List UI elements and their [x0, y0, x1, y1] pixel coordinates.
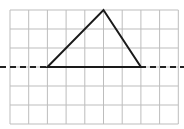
triangle: [47, 10, 140, 67]
grid-diagram: [0, 0, 184, 129]
